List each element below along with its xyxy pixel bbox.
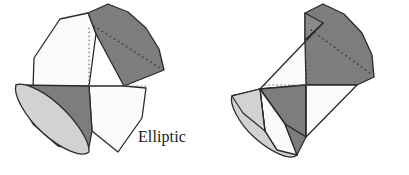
elliptic-upper-left-plane — [33, 13, 96, 88]
hyperbolic-diagram — [205, 0, 409, 175]
figure-panel-hyperbolic: Hyperbolic — [205, 0, 409, 175]
conic-sections-figure: Elliptic — [0, 0, 409, 175]
elliptic-upper-right-cone-nappe — [88, 4, 164, 86]
hyperbolic-right-plane-edge — [306, 85, 357, 137]
elliptic-diagram — [0, 0, 205, 175]
hyperbolic-upper-right-cone-nappe — [305, 4, 374, 85]
figure-panel-elliptic: Elliptic — [0, 0, 205, 175]
caption-elliptic: Elliptic — [138, 128, 186, 146]
